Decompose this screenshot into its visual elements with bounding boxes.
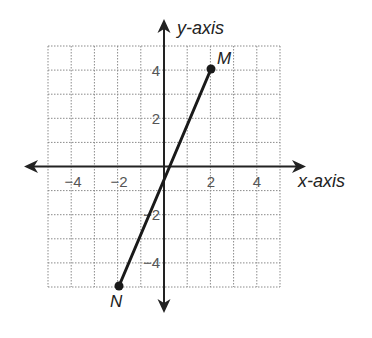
x-axis-label: x-axis (297, 171, 345, 191)
y-axis-label: y-axis (175, 18, 224, 38)
y-tick-label: 2 (152, 110, 160, 127)
x-tick-label: −4 (64, 173, 81, 190)
point-n (115, 282, 124, 291)
axes (24, 19, 306, 313)
coordinate-plane: −4 −2 2 4 4 2 −2 −4 y-axis x-axis M N (0, 0, 372, 338)
x-tick-label: 4 (253, 173, 261, 190)
point-m (207, 65, 216, 74)
point-n-label: N (110, 292, 123, 311)
y-tick-label: −4 (143, 254, 160, 271)
point-m-label: M (217, 49, 232, 68)
x-tick-label: −2 (110, 173, 127, 190)
y-tick-label: 4 (152, 62, 160, 79)
x-tick-label: 2 (207, 173, 215, 190)
